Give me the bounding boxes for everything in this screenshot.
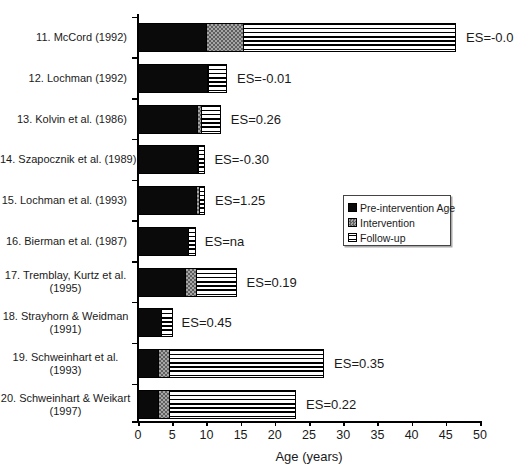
x-tick-label: 45	[428, 428, 464, 442]
x-axis-tick	[480, 421, 482, 426]
y-axis-tick	[132, 302, 137, 304]
effect-size-label: ES=-0.0	[466, 23, 513, 52]
intervention-swatch-icon	[348, 218, 357, 227]
pre-intervention-segment	[138, 64, 208, 93]
follow-up-segment	[198, 145, 205, 174]
legend-item-pre-intervention: Pre-intervention Age	[348, 200, 448, 215]
x-axis-tick	[206, 421, 208, 426]
pre-intervention-swatch-icon	[348, 203, 357, 212]
x-tick-label: 40	[394, 428, 430, 442]
follow-up-segment	[169, 390, 296, 419]
y-axis-tick	[132, 17, 137, 19]
x-tick-label: 15	[223, 428, 259, 442]
stacked-bar-chart-figure: Age (years) Pre-intervention Age Interve…	[0, 0, 516, 474]
y-axis-tick	[132, 180, 137, 182]
x-axis-tick	[241, 421, 243, 426]
x-tick-label: 10	[188, 428, 224, 442]
pre-intervention-segment	[138, 268, 186, 297]
y-axis-tick	[132, 384, 137, 386]
effect-size-label: ES=1.25	[215, 186, 265, 215]
follow-up-segment	[161, 308, 173, 337]
x-axis-tick	[172, 421, 174, 426]
x-tick-label: 5	[154, 428, 190, 442]
x-axis-tick	[309, 421, 311, 426]
legend-label: Follow-up	[360, 232, 406, 244]
x-tick-label: 35	[359, 428, 395, 442]
stacked-bar	[138, 105, 221, 134]
follow-up-segment	[196, 268, 236, 297]
effect-size-label: ES=na	[205, 227, 244, 256]
plot-area: Age (years) Pre-intervention Age Interve…	[0, 0, 516, 474]
y-axis-tick	[132, 220, 137, 222]
x-axis-tick	[377, 421, 379, 426]
study-label: 17. Tremblay, Kurtz et al.(1995)	[0, 268, 131, 297]
study-label: 20. Schweinhart & Weikart(1997)	[0, 390, 131, 419]
follow-up-segment	[201, 105, 221, 134]
pre-intervention-segment	[138, 105, 198, 134]
x-axis-line	[132, 421, 481, 423]
effect-size-label: ES=0.45	[182, 308, 232, 337]
legend-label: Intervention	[360, 217, 415, 229]
effect-size-label: ES=0.35	[334, 349, 384, 378]
x-tick-label: 25	[291, 428, 327, 442]
study-label: 14. Szapocznik et al. (1989)	[0, 145, 131, 174]
x-axis-tick	[343, 421, 345, 426]
effect-size-label: ES=0.19	[247, 268, 297, 297]
stacked-bar	[138, 390, 296, 419]
stacked-bar	[138, 186, 205, 215]
study-label: 13. Kolvin et al. (1986)	[0, 105, 131, 134]
stacked-bar	[138, 268, 237, 297]
pre-intervention-segment	[138, 145, 198, 174]
follow-up-segment	[188, 227, 196, 256]
study-label: 19. Schweinhart et al.(1993)	[0, 349, 131, 378]
pre-intervention-segment	[138, 390, 159, 419]
x-axis-tick	[275, 421, 277, 426]
follow-up-segment	[199, 186, 205, 215]
follow-up-segment	[169, 349, 324, 378]
pre-intervention-segment	[138, 227, 189, 256]
pre-intervention-segment	[138, 23, 207, 52]
follow-up-segment	[208, 64, 226, 93]
x-tick-label: 30	[325, 428, 361, 442]
stacked-bar	[138, 145, 205, 174]
intervention-segment	[206, 23, 244, 52]
pre-intervention-segment	[138, 349, 159, 378]
legend-item-follow-up: Follow-up	[348, 230, 448, 245]
legend: Pre-intervention Age Intervention Follow…	[343, 195, 451, 246]
x-axis-tick	[412, 421, 414, 426]
follow-up-segment	[243, 23, 456, 52]
stacked-bar	[138, 23, 456, 52]
study-label: 11. McCord (1992)	[0, 23, 131, 52]
study-label: 12. Lochman (1992)	[0, 64, 131, 93]
stacked-bar	[138, 64, 227, 93]
x-tick-label: 20	[257, 428, 293, 442]
follow-up-swatch-icon	[348, 233, 357, 242]
study-label: 15. Lochman et al. (1993)	[0, 186, 131, 215]
x-axis-title: Age (years)	[254, 449, 364, 464]
legend-label: Pre-intervention Age	[360, 202, 455, 214]
effect-size-label: ES=-0.01	[237, 64, 292, 93]
x-axis-tick	[446, 421, 448, 426]
y-axis-tick	[132, 57, 137, 59]
y-axis-tick	[132, 343, 137, 345]
pre-intervention-segment	[138, 186, 197, 215]
pre-intervention-segment	[138, 308, 162, 337]
stacked-bar	[138, 349, 324, 378]
legend-item-intervention: Intervention	[348, 215, 448, 230]
x-tick-label: 0	[120, 428, 156, 442]
effect-size-label: ES=0.22	[306, 390, 356, 419]
y-axis-tick	[132, 261, 137, 263]
x-axis-tick	[138, 421, 140, 426]
effect-size-label: ES=-0.30	[214, 145, 269, 174]
study-label: 16. Bierman et al. (1987)	[0, 227, 131, 256]
y-axis-tick	[132, 98, 137, 100]
study-label: 18. Strayhorn & Weidman(1991)	[0, 308, 131, 337]
x-tick-label: 50	[462, 428, 498, 442]
stacked-bar	[138, 227, 196, 256]
y-axis-tick	[132, 139, 137, 141]
stacked-bar	[138, 308, 173, 337]
effect-size-label: ES=0.26	[231, 105, 281, 134]
